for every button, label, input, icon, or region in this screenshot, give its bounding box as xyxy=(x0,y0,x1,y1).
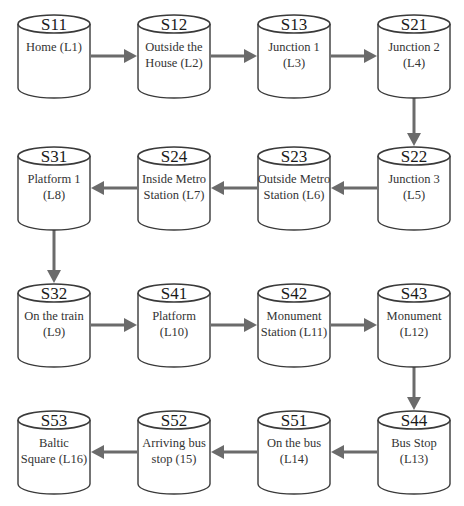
node-s22: S22 Junction 3 (L5) xyxy=(377,146,451,230)
node-s11: S11 Home (L1) xyxy=(17,14,91,98)
node-s42: S42 Monument Station (L11) xyxy=(257,283,331,367)
node-label: Baltic Square (L16) xyxy=(13,435,95,467)
node-id: S24 xyxy=(137,147,211,167)
node-label: Outside the House (L2) xyxy=(133,39,215,71)
node-label: Home (L1) xyxy=(13,39,95,55)
node-label: Junction 3 (L5) xyxy=(373,171,455,203)
node-id: S22 xyxy=(377,147,451,167)
node-id: S52 xyxy=(137,411,211,431)
node-id: S12 xyxy=(137,15,211,35)
flow-diagram: S11 Home (L1) S12 Outside the House (L2)… xyxy=(0,0,464,506)
node-s32: S32 On the train (L9) xyxy=(17,283,91,367)
node-s21: S21 Junction 2 (L4) xyxy=(377,14,451,98)
node-s43: S43 Monument (L12) xyxy=(377,283,451,367)
node-label: Inside Metro Station (L7) xyxy=(133,171,215,203)
node-id: S21 xyxy=(377,15,451,35)
arrowhead-icon xyxy=(407,397,421,410)
node-label: Outside Metro Station (L6) xyxy=(253,171,335,203)
node-label: Junction 1 (L3) xyxy=(253,39,335,71)
node-label: Junction 2 (L4) xyxy=(373,39,455,71)
node-label: Arriving bus stop (15) xyxy=(133,435,215,467)
node-s13: S13 Junction 1 (L3) xyxy=(257,14,331,98)
arrowhead-icon xyxy=(47,270,61,283)
node-id: S11 xyxy=(17,15,91,35)
node-id: S31 xyxy=(17,147,91,167)
node-label: Bus Stop (L13) xyxy=(373,435,455,467)
node-id: S42 xyxy=(257,284,331,304)
node-label: On the train (L9) xyxy=(13,308,95,340)
node-id: S43 xyxy=(377,284,451,304)
node-id: S23 xyxy=(257,147,331,167)
node-label: Monument (L12) xyxy=(373,308,455,340)
node-label: Platform 1 (L8) xyxy=(13,171,95,203)
node-id: S41 xyxy=(137,284,211,304)
node-s44: S44 Bus Stop (L13) xyxy=(377,410,451,494)
node-s53: S53 Baltic Square (L16) xyxy=(17,410,91,494)
node-s23: S23 Outside Metro Station (L6) xyxy=(257,146,331,230)
node-s24: S24 Inside Metro Station (L7) xyxy=(137,146,211,230)
node-s41: S41 Platform (L10) xyxy=(137,283,211,367)
node-id: S53 xyxy=(17,411,91,431)
arrowhead-icon xyxy=(407,133,421,146)
node-s31: S31 Platform 1 (L8) xyxy=(17,146,91,230)
node-s52: S52 Arriving bus stop (15) xyxy=(137,410,211,494)
node-label: Monument Station (L11) xyxy=(253,308,335,340)
node-id: S51 xyxy=(257,411,331,431)
node-s12: S12 Outside the House (L2) xyxy=(137,14,211,98)
node-label: On the bus (L14) xyxy=(253,435,335,467)
node-id: S32 xyxy=(17,284,91,304)
node-label: Platform (L10) xyxy=(133,308,215,340)
node-id: S13 xyxy=(257,15,331,35)
node-s51: S51 On the bus (L14) xyxy=(257,410,331,494)
node-id: S44 xyxy=(377,411,451,431)
